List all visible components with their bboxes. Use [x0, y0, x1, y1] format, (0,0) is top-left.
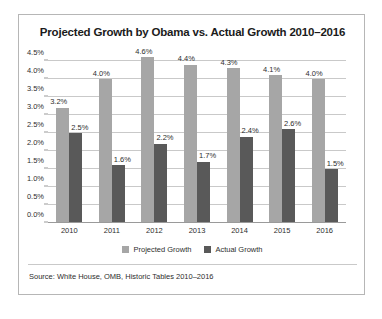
bar-value-label: 2.5% — [71, 124, 88, 132]
bar-value-label: 4.0% — [93, 70, 110, 78]
bar-value-label: 4.3% — [220, 59, 237, 67]
bar[interactable]: 3.2% — [56, 108, 69, 223]
bar-value-label: 1.7% — [199, 152, 216, 160]
chart-panel: Projected Growth by Obama vs. Actual Gro… — [18, 14, 365, 295]
legend-label: Actual Growth — [215, 245, 262, 254]
source-divider — [28, 264, 357, 265]
bar-value-label: 1.5% — [327, 160, 344, 168]
y-tick-label: 0.5% — [27, 192, 44, 201]
y-tick-label: 2.0% — [27, 138, 44, 147]
y-tick-label: 1.5% — [27, 156, 44, 165]
bar[interactable]: 2.4% — [240, 137, 253, 223]
y-tick-label: 4.5% — [27, 48, 44, 57]
y-tick-label: 3.5% — [27, 84, 44, 93]
bar-group: 4.6%2.2% — [133, 61, 176, 223]
bar-groups: 3.2%2.5%4.0%1.6%4.6%2.2%4.4%1.7%4.3%2.4%… — [48, 61, 346, 223]
bar-value-label: 4.6% — [135, 48, 152, 56]
bar[interactable]: 1.6% — [112, 165, 125, 223]
x-tick-label: 2013 — [176, 226, 219, 235]
y-tick-label: 2.5% — [27, 120, 44, 129]
bar[interactable]: 4.0% — [312, 79, 325, 223]
bar[interactable]: 4.0% — [99, 79, 112, 223]
x-tick-label: 2014 — [218, 226, 261, 235]
bar[interactable]: 2.2% — [154, 144, 167, 223]
bar-value-label: 1.6% — [114, 156, 131, 164]
bar[interactable]: 4.3% — [227, 68, 240, 223]
y-tick-label: 1.0% — [27, 174, 44, 183]
bar-group: 4.1%2.6% — [261, 61, 304, 223]
bar[interactable]: 1.7% — [197, 162, 210, 223]
source-note: Source: White House, OMB, Historic Table… — [29, 272, 214, 281]
bar[interactable]: 1.5% — [325, 169, 338, 223]
x-tick-label: 2011 — [91, 226, 134, 235]
legend-swatch — [122, 246, 129, 253]
y-tick-label: 4.0% — [27, 66, 44, 75]
bar[interactable]: 4.6% — [141, 57, 154, 223]
bar[interactable]: 4.1% — [269, 75, 282, 223]
x-tick-label: 2012 — [133, 226, 176, 235]
bar-group: 4.0%1.6% — [91, 61, 134, 223]
bar-value-label: 4.4% — [178, 55, 195, 63]
bar-value-label: 4.1% — [263, 66, 280, 74]
bar-value-label: 3.2% — [50, 98, 67, 106]
legend-label: Projected Growth — [133, 245, 191, 254]
x-axis-labels: 2010201120122013201420152016 — [48, 226, 346, 235]
x-tick-label: 2016 — [303, 226, 346, 235]
bar-group: 3.2%2.5% — [48, 61, 91, 223]
bar-value-label: 4.0% — [306, 70, 323, 78]
bar-value-label: 2.4% — [242, 127, 259, 135]
legend-item[interactable]: Actual Growth — [204, 245, 262, 254]
bar[interactable]: 2.6% — [282, 129, 295, 223]
plot-area: 0.0%0.5%1.0%1.5%2.0%2.5%3.0%3.5%4.0%4.5%… — [48, 61, 346, 223]
x-tick-label: 2010 — [48, 226, 91, 235]
chart-legend: Projected GrowthActual Growth — [19, 245, 366, 254]
x-tick-label: 2015 — [261, 226, 304, 235]
chart-title: Projected Growth by Obama vs. Actual Gro… — [19, 26, 366, 38]
legend-swatch — [204, 246, 211, 253]
y-tick-label: 0.0% — [27, 210, 44, 219]
bar[interactable]: 2.5% — [69, 133, 82, 223]
bar-value-label: 2.6% — [284, 120, 301, 128]
y-tick-label: 3.0% — [27, 102, 44, 111]
legend-item[interactable]: Projected Growth — [122, 245, 191, 254]
bar[interactable]: 4.4% — [184, 65, 197, 223]
bar-group: 4.3%2.4% — [218, 61, 261, 223]
bar-group: 4.0%1.5% — [303, 61, 346, 223]
bar-value-label: 2.2% — [156, 134, 173, 142]
bar-group: 4.4%1.7% — [176, 61, 219, 223]
x-axis-baseline — [48, 222, 346, 223]
